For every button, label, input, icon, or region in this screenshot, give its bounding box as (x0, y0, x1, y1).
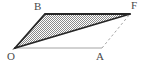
vertex-label-a: A (96, 51, 104, 62)
geometry-canvas (0, 0, 144, 70)
vertex-label-b: B (34, 1, 41, 12)
vertex-label-o: O (7, 51, 15, 62)
geometry-figure: O B F A (0, 0, 144, 70)
vertex-label-f: F (131, 0, 137, 11)
vertex-point-F (129, 13, 131, 15)
vertex-point-O (14, 47, 16, 49)
shaded-triangle-OBF (15, 14, 130, 48)
